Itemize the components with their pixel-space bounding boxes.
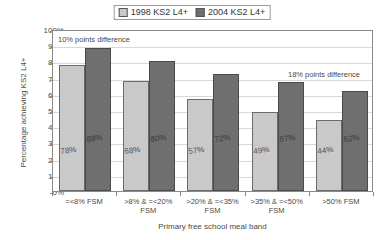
annotation-right: 18% points difference: [288, 70, 360, 79]
legend-swatch-1998: [119, 8, 128, 17]
legend-entry-1998: 1998 KS2 L4+: [119, 7, 188, 17]
bar-value-label: 68%: [124, 145, 141, 156]
bar-chart: 1998 KS2 L4+ 2004 KS2 L4+ Percentage ach…: [0, 0, 384, 240]
x-axis-tick-mark: [245, 192, 246, 196]
bar: 44%: [316, 120, 342, 191]
bar: 62%: [342, 91, 368, 191]
bar-group: 78%88%: [53, 31, 117, 191]
bar-value-label: 78%: [60, 145, 77, 156]
bar-value-label: 67%: [278, 133, 295, 144]
x-axis-tick-mark: [373, 192, 374, 196]
x-axis-category-label: >35% & =<50% FSM: [245, 197, 309, 215]
bar: 49%: [252, 112, 278, 191]
x-axis-tick-mark: [52, 192, 53, 196]
bars-layer: 78%88%68%80%57%72%49%67%44%62%: [53, 31, 372, 191]
x-axis-tick-mark: [309, 192, 310, 196]
bar-value-label: 49%: [252, 145, 269, 156]
bar-group: 44%62%: [310, 31, 374, 191]
x-axis-title: Primary free school meal band: [52, 222, 373, 231]
bar: 57%: [187, 99, 213, 191]
x-axis-category-label: >8% & =<20% FSM: [116, 197, 180, 215]
bar: 80%: [149, 61, 175, 191]
legend-entry-2004: 2004 KS2 L4+: [196, 7, 265, 17]
bar-group: 57%72%: [181, 31, 245, 191]
bar: 68%: [123, 81, 149, 191]
bar: 88%: [85, 48, 111, 191]
bar-group: 68%80%: [117, 31, 181, 191]
bar: 67%: [278, 82, 304, 191]
bar-value-label: 44%: [317, 145, 334, 156]
bar-value-label: 62%: [343, 133, 360, 144]
bar-value-label: 72%: [214, 133, 231, 144]
bar: 78%: [59, 65, 85, 191]
x-axis-tick-mark: [116, 192, 117, 196]
chart-legend: 1998 KS2 L4+ 2004 KS2 L4+: [114, 5, 271, 20]
legend-label-1998: 1998 KS2 L4+: [131, 7, 188, 17]
x-axis-tick-mark: [180, 192, 181, 196]
bar-group: 49%67%: [246, 31, 310, 191]
legend-label-2004: 2004 KS2 L4+: [208, 7, 265, 17]
bar-value-label: 80%: [150, 133, 167, 144]
x-axis-category-label: >20% & =<35% FSM: [180, 197, 244, 215]
x-axis-category-label: >50% FSM: [309, 197, 373, 206]
bar: 72%: [213, 74, 239, 191]
legend-swatch-2004: [196, 8, 205, 17]
annotation-left: 10% points difference: [58, 35, 130, 44]
bar-value-label: 88%: [86, 133, 103, 144]
plot-area: 78%88%68%80%57%72%49%67%44%62%: [52, 30, 373, 192]
bar-value-label: 57%: [188, 145, 205, 156]
x-axis-category-label: =<8% FSM: [52, 197, 116, 206]
